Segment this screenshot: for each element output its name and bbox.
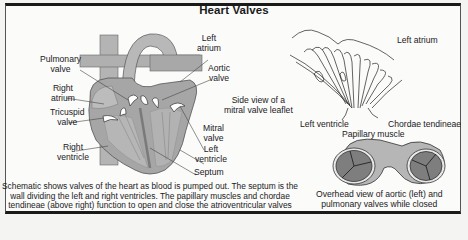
overhead-valves-illustration <box>333 139 445 185</box>
label-left-ventricle: Left ventricle <box>195 145 227 164</box>
label-mitral-valve: Mitral valve <box>203 124 224 143</box>
label-tricuspid-valve: Tricuspid valve <box>50 108 85 127</box>
label-papillary-muscle: Papillary muscle <box>342 130 405 140</box>
schematic-caption: Schematic shows valves of the heart as b… <box>0 182 300 211</box>
label-right-ventricle: Right ventricle <box>57 143 89 162</box>
label-aortic-valve: Aortic valve <box>208 64 230 83</box>
label-pulmonary-valve: Pulmonary valve <box>40 55 81 74</box>
label-septum: Septum <box>194 168 224 178</box>
mitral-side-view-caption: Side view of a mitral valve leaflet <box>224 96 293 115</box>
label-left-atrium: Left atrium <box>197 34 221 53</box>
label-right-atrium: Right atrium <box>51 84 75 103</box>
overhead-view-caption: Overhead view of aortic (left) and pulmo… <box>316 190 443 209</box>
mitral-leaflet-illustration <box>290 30 402 120</box>
label-side-left-atrium: Left atrium <box>397 36 438 46</box>
